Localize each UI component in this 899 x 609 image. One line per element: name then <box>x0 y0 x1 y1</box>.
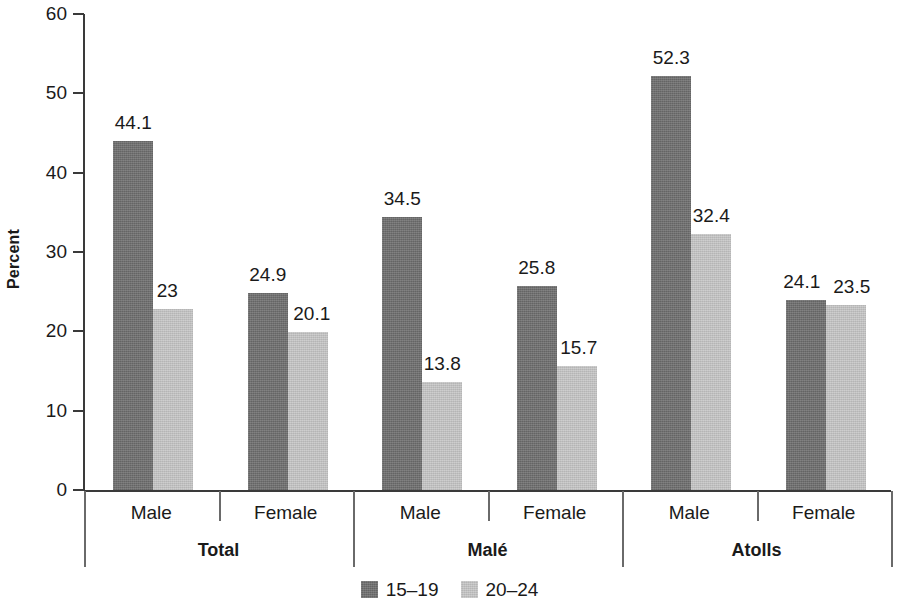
y-axis-tick-label: 0 <box>25 480 67 499</box>
plot-area: 44.12324.920.134.513.825.815.752.332.424… <box>84 14 891 491</box>
y-axis-tick-mark <box>73 489 84 491</box>
legend-label: 15–19 <box>386 580 439 599</box>
legend-label: 20–24 <box>486 580 539 599</box>
bar <box>248 293 288 491</box>
bar-value-label: 32.4 <box>691 206 731 225</box>
y-axis-tick-label: 60 <box>25 4 67 23</box>
bar <box>826 305 866 491</box>
bar <box>517 286 557 491</box>
x-axis-group-divider <box>622 491 624 567</box>
bar-texture <box>382 217 422 491</box>
bar-value-label: 25.8 <box>517 258 557 277</box>
bar <box>382 217 422 491</box>
bar-value-label: 24.1 <box>782 272 822 291</box>
y-axis-tick-label: 20 <box>25 321 67 340</box>
legend-swatch-texture <box>361 581 378 598</box>
bar-value-label: 15.7 <box>559 338 599 357</box>
legend-swatch-texture <box>461 581 478 598</box>
x-axis-group-label: Malé <box>408 541 568 559</box>
x-axis-group-divider <box>84 491 86 567</box>
y-axis-tick-mark <box>73 13 84 15</box>
bar-texture <box>691 234 731 491</box>
bar-value-label: 23.5 <box>832 277 872 296</box>
legend-color-swatch <box>461 581 478 598</box>
bar <box>288 332 328 491</box>
x-axis-category-label: Male <box>360 503 480 522</box>
bar <box>786 300 826 491</box>
x-axis-category-divider <box>757 491 759 521</box>
y-axis-tick-label: 40 <box>25 163 67 182</box>
x-axis-category-label: Female <box>226 503 346 522</box>
x-axis-category-divider <box>488 491 490 521</box>
bar-texture <box>288 332 328 491</box>
x-axis-category-divider <box>219 491 221 521</box>
chart-legend: 15–1920–24 <box>0 580 899 599</box>
bar-value-label: 13.8 <box>422 354 462 373</box>
x-axis-group-divider <box>891 491 893 567</box>
bar-value-label: 24.9 <box>248 265 288 284</box>
bar <box>113 141 153 491</box>
bar-texture <box>248 293 288 491</box>
bar-texture <box>826 305 866 491</box>
bar-texture <box>113 141 153 491</box>
bar <box>557 366 597 491</box>
y-axis-tick-mark <box>73 251 84 253</box>
bar <box>153 309 193 491</box>
bar-value-label: 44.1 <box>113 113 153 132</box>
y-axis-title: Percent <box>5 219 23 299</box>
y-axis-tick-mark <box>73 92 84 94</box>
legend-item: 15–19 <box>361 580 439 599</box>
bar-texture <box>651 76 691 491</box>
x-axis-category-label: Female <box>764 503 884 522</box>
y-axis-tick-label: 10 <box>25 401 67 420</box>
y-axis-tick-mark <box>73 172 84 174</box>
bar-value-label: 20.1 <box>292 304 332 323</box>
bar-texture <box>786 300 826 491</box>
y-axis-tick-label: 30 <box>25 242 67 261</box>
bar <box>651 76 691 491</box>
y-axis-tick-label: 50 <box>25 83 67 102</box>
bar-texture <box>557 366 597 491</box>
bar-texture <box>517 286 557 491</box>
x-axis-category-label: Female <box>495 503 615 522</box>
bar-value-label: 52.3 <box>651 48 691 67</box>
x-axis-group-label: Atolls <box>677 541 837 559</box>
x-axis-group-divider <box>353 491 355 567</box>
x-axis-group-label: Total <box>139 541 299 559</box>
y-axis-tick-mark <box>73 410 84 412</box>
bar-texture <box>153 309 193 491</box>
bar <box>691 234 731 491</box>
bar-texture <box>422 382 462 491</box>
y-axis-tick-mark <box>73 330 84 332</box>
bar-value-label: 23 <box>147 281 187 300</box>
legend-item: 20–24 <box>461 580 539 599</box>
bar-chart-figure: Percent 6050403020100 44.12324.920.134.5… <box>0 0 899 609</box>
legend-color-swatch <box>361 581 378 598</box>
x-axis-category-label: Male <box>629 503 749 522</box>
x-axis-category-label: Male <box>91 503 211 522</box>
bar-value-label: 34.5 <box>382 189 422 208</box>
bar <box>422 382 462 491</box>
